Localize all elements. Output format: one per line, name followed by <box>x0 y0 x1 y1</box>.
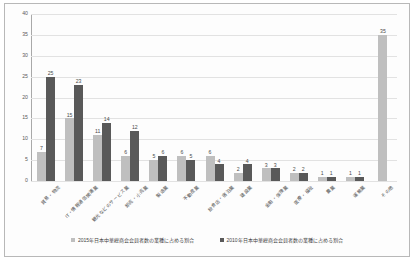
bar[interactable]: 12 <box>130 131 139 181</box>
bar-value-label: 5 <box>189 154 192 159</box>
bar-value-label: 1 <box>358 171 361 176</box>
bar[interactable]: 6 <box>177 156 186 181</box>
bar-value-label: 1 <box>349 171 352 176</box>
chart-legend: 2015年日本中華総商会会員者数の業種に占める割合2010年日本中華総商会会員者… <box>5 236 409 243</box>
bar[interactable]: 11 <box>93 135 102 181</box>
bar-value-label: 1 <box>321 171 324 176</box>
bar-group: 65 <box>172 14 200 181</box>
legend-entry[interactable]: 2015年日本中華総商会会員者数の業種に占める割合 <box>71 236 194 243</box>
x-axis-label-cell: 建設業 <box>229 184 257 228</box>
y-axis-tick-label: 5 <box>25 158 28 163</box>
bar[interactable]: 7 <box>37 152 46 181</box>
legend-label: 2010年日本中華総商会会員者数の業種に占める割合 <box>227 236 343 243</box>
x-axis-label-cell: 卸売・小売業 <box>116 184 144 228</box>
y-axis-tick-label: 30 <box>22 53 28 58</box>
bar[interactable]: 4 <box>243 164 252 181</box>
bar[interactable]: 1 <box>355 177 364 181</box>
x-axis-tick-label: 農業 <box>326 185 336 195</box>
x-axis-tick-label: 建設業 <box>240 185 254 199</box>
bar[interactable]: 2 <box>299 173 308 181</box>
bar[interactable]: 5 <box>149 160 158 181</box>
bar[interactable]: 6 <box>121 156 130 181</box>
bar[interactable]: 23 <box>74 85 83 181</box>
x-axis-category-labels: 貿易・物流IT・情報通信関連業観光などのサービス業卸売・小売業製造業不動産業飲食… <box>32 184 398 228</box>
bar-value-label: 2 <box>237 167 240 172</box>
bar[interactable]: 35 <box>378 35 387 181</box>
bar-group: 64 <box>200 14 228 181</box>
bar[interactable]: 6 <box>158 156 167 181</box>
bar-group: 33 <box>257 14 285 181</box>
bar[interactable]: 15 <box>65 118 74 181</box>
x-axis-label-cell: 医療・福祉 <box>285 184 313 228</box>
x-axis-label-cell: 運輸業 <box>342 184 370 228</box>
legend-swatch-icon <box>220 238 224 242</box>
bar[interactable]: 3 <box>262 168 271 181</box>
x-axis-tick-label: 製造業 <box>156 185 170 199</box>
x-axis-label-cell: 観光などのサービス業 <box>88 184 116 228</box>
bar[interactable]: 6 <box>206 156 215 181</box>
bar-value-label: 2 <box>293 167 296 172</box>
y-axis-tick-label: 35 <box>22 32 28 37</box>
x-axis-label-cell: 不動産業 <box>173 184 201 228</box>
bar-value-label: 15 <box>67 113 73 118</box>
bar[interactable]: 1 <box>346 177 355 181</box>
bar-value-label: 4 <box>218 159 221 164</box>
bar[interactable]: 14 <box>102 123 111 181</box>
y-axis-tick-label: 10 <box>22 137 28 142</box>
bar-value-label: 6 <box>209 150 212 155</box>
legend-swatch-icon <box>71 238 75 242</box>
bar-group: 725 <box>32 14 60 181</box>
bar[interactable]: 5 <box>186 160 195 181</box>
bar-value-label: 14 <box>104 117 110 122</box>
x-axis-label-cell: 金融・保険業 <box>257 184 285 228</box>
x-axis-label-cell: 製造業 <box>145 184 173 228</box>
bar-value-label: 6 <box>180 150 183 155</box>
bar-value-label: 25 <box>48 71 54 76</box>
bar-value-label: 3 <box>265 163 268 168</box>
bar-value-label: 3 <box>274 163 277 168</box>
bar-value-label: 5 <box>152 154 155 159</box>
x-axis-label-cell: IT・情報通信関連業 <box>60 184 88 228</box>
x-axis-label-cell: 農業 <box>314 184 342 228</box>
legend-label: 2015年日本中華総商会会員者数の業種に占める割合 <box>78 236 194 243</box>
bar-value-label: 2 <box>302 167 305 172</box>
bar[interactable]: 25 <box>46 77 55 181</box>
y-axis-tick-label: 20 <box>22 95 28 100</box>
x-axis-label-cell: 飲食店・宿泊業 <box>201 184 229 228</box>
bar-group: 22 <box>285 14 313 181</box>
bar-group: 56 <box>144 14 172 181</box>
legend-entry[interactable]: 2010年日本中華総商会会員者数の業種に占める割合 <box>220 236 343 243</box>
bar-value-label: 6 <box>161 150 164 155</box>
gridline <box>31 181 397 182</box>
bar[interactable]: 1 <box>318 177 327 181</box>
plot-area: 0510152025303540 72515231114612566564243… <box>31 14 397 182</box>
bar[interactable]: 1 <box>327 177 336 181</box>
bar-value-label: 11 <box>95 129 100 134</box>
bar-value-label: 23 <box>76 79 82 84</box>
y-axis-tick-label: 40 <box>22 11 28 16</box>
x-axis-tick-label: その他 <box>381 185 395 199</box>
bar-group: 11 <box>313 14 341 181</box>
bar[interactable]: 2 <box>234 173 243 181</box>
bar-group: 35 <box>369 14 397 181</box>
bar[interactable]: 4 <box>215 164 224 181</box>
bar-group: 11 <box>341 14 369 181</box>
bar[interactable]: 2 <box>290 173 299 181</box>
bar-value-label: 12 <box>132 125 138 130</box>
y-axis-tick-label: 0 <box>25 178 28 183</box>
bar-value-label: 35 <box>380 29 386 34</box>
bar-group: 1114 <box>88 14 116 181</box>
bar-value-label: 6 <box>124 150 127 155</box>
bar-value-label: 7 <box>40 146 43 151</box>
y-axis-tick-label: 25 <box>22 74 28 79</box>
chart-container: 0510152025303540 72515231114612566564243… <box>4 3 410 257</box>
x-axis-label-cell: その他 <box>370 184 398 228</box>
bar[interactable]: 3 <box>271 168 280 181</box>
x-axis-tick-label: 不動産業 <box>183 185 200 202</box>
bar-value-label: 1 <box>330 171 333 176</box>
bar-value-label: 4 <box>246 159 249 164</box>
x-axis-label-cell: 貿易・物流 <box>32 184 60 228</box>
bars-layer: 72515231114612566564243322111135 <box>32 14 397 181</box>
x-axis-tick-label: 運輸業 <box>353 185 367 199</box>
bar-group: 24 <box>229 14 257 181</box>
